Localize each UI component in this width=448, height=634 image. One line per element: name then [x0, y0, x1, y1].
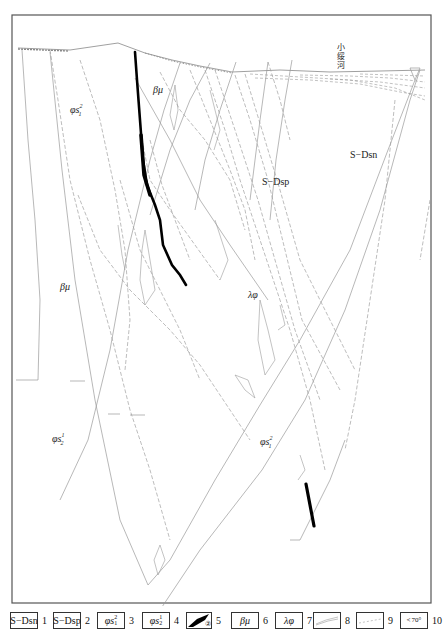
legend-item-4: φs12 4 — [142, 610, 179, 630]
legend-number: 10 — [432, 615, 442, 626]
legend-number: 9 — [388, 615, 393, 626]
legend-number: 1 — [42, 615, 47, 626]
river-label: 小绥河 — [336, 43, 345, 70]
legend-symbol-phis2-1: φs12 — [142, 612, 170, 629]
legend-number: 8 — [345, 615, 350, 626]
legend-symbol-beta-mu: βμ — [231, 612, 259, 629]
unit-labels: φs21 βμ S−Dsp S−Dsn βμ λφ φs12 φs21 — [52, 84, 377, 449]
solid-boundaries — [16, 50, 420, 606]
legend-item-1: S−Dsn 1 — [10, 610, 47, 630]
legend-symbol-phis1-2: φs21 — [97, 612, 125, 629]
legend-item-2: S−Dsp 2 — [53, 610, 90, 630]
label-beta-mu-top: βμ — [152, 84, 163, 95]
legend-item-10: < 70° 10 — [400, 610, 442, 630]
cross-section-diagram: 小绥河 — [0, 0, 448, 606]
legend-symbol-dashed-line — [356, 612, 384, 629]
legend-item-3: φs21 3 — [97, 610, 134, 630]
legend-item-6: βμ 6 — [231, 610, 268, 630]
legend-number: 6 — [263, 615, 268, 626]
legend-symbol-vein: ② — [186, 612, 212, 629]
label-s-dsp: S−Dsp — [262, 176, 289, 187]
legend-number: 7 — [307, 615, 312, 626]
legend-number: 5 — [216, 615, 221, 626]
dip-arrow-icon: < — [407, 616, 411, 624]
label-lambda-phi: λφ — [247, 289, 258, 300]
label-phis2-1-left: φs12 — [52, 432, 64, 446]
label-beta-mu-left: βμ — [59, 281, 70, 292]
legend-item-9: 9 — [356, 610, 393, 630]
solid-line-icon — [314, 613, 340, 628]
legend-number: 4 — [174, 615, 179, 626]
legend-item-7: λφ 7 — [275, 610, 312, 630]
legend-symbol-dip: < 70° — [400, 612, 428, 629]
legend-item-8: 8 — [313, 610, 350, 630]
label-phis1-2-top: φs21 — [70, 103, 82, 117]
label-s-dsn: S−Dsn — [350, 149, 377, 160]
legend-symbol-lambda-phi: λφ — [275, 612, 303, 629]
legend-symbol-solid-line — [313, 612, 341, 629]
topographic-surface — [18, 43, 425, 73]
label-phis1-2-bottom: φs21 — [260, 435, 272, 449]
legend: S−Dsn 1 S−Dsp 2 φs21 3 φs12 4 ② 5 βμ 6 λ… — [0, 606, 448, 634]
legend-number: 2 — [85, 615, 90, 626]
dashed-contacts — [50, 50, 430, 540]
legend-item-5: ② 5 — [186, 610, 221, 630]
legend-symbol-s-dsn: S−Dsn — [10, 612, 38, 629]
legend-symbol-s-dsp: S−Dsp — [53, 612, 81, 629]
legend-number: 3 — [129, 615, 134, 626]
dashed-line-icon — [357, 613, 383, 628]
